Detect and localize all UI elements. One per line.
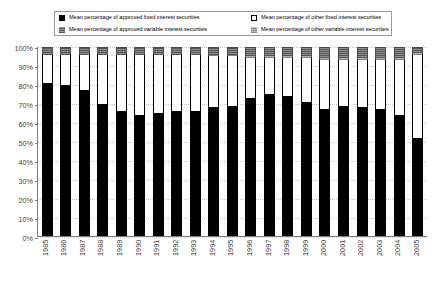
bar-column[interactable] xyxy=(42,47,53,236)
bar-column[interactable] xyxy=(79,47,90,236)
legend-item-other-variable: Mean percentage of other variable intere… xyxy=(251,24,397,36)
x-axis-tick-label: 1986 xyxy=(59,240,70,284)
bar-column[interactable] xyxy=(264,47,275,236)
bar-column[interactable] xyxy=(60,47,71,236)
segment-approved-fixed xyxy=(227,106,238,236)
segment-approved-fixed xyxy=(97,104,108,236)
segment-other-fixed xyxy=(357,60,368,107)
stacked-bar[interactable] xyxy=(282,47,293,236)
x-axis-tick-label: 1996 xyxy=(245,240,256,284)
segment-other-fixed xyxy=(97,55,108,104)
segment-other-fixed xyxy=(264,58,275,94)
segment-other-variable xyxy=(301,47,312,56)
x-axis-tick-label: 1995 xyxy=(226,240,237,284)
segment-approved-fixed xyxy=(171,111,182,236)
x-axis-tick-label: 1990 xyxy=(134,240,145,284)
x-axis-tick-label: 2001 xyxy=(338,240,349,284)
x-axis-tick-label: 1993 xyxy=(189,240,200,284)
bar-column[interactable] xyxy=(208,47,219,236)
segment-other-variable xyxy=(357,47,368,58)
stacked-bar[interactable] xyxy=(301,47,312,236)
segment-approved-fixed xyxy=(338,106,349,236)
stacked-bar[interactable] xyxy=(190,47,201,236)
stacked-bar[interactable] xyxy=(79,47,90,236)
stacked-bar[interactable] xyxy=(60,47,71,236)
segment-approved-fixed xyxy=(282,96,293,236)
stacked-bar[interactable] xyxy=(208,47,219,236)
bar-column[interactable] xyxy=(227,47,238,236)
dark-gray-square-icon xyxy=(59,27,65,33)
y-axis-tick-label: 100% xyxy=(15,44,33,53)
x-axis-tick-label: 2000 xyxy=(319,240,330,284)
y-axis-tick-label: 10% xyxy=(19,215,33,224)
segment-other-variable xyxy=(208,47,219,55)
x-axis-tick-label: 1999 xyxy=(301,240,312,284)
bar-column[interactable] xyxy=(338,47,349,236)
segment-approved-fixed xyxy=(301,102,312,236)
stacked-bar[interactable] xyxy=(264,47,275,236)
legend-label: Mean percentage of other variable intere… xyxy=(261,24,389,35)
bar-column[interactable] xyxy=(301,47,312,236)
segment-other-variable xyxy=(282,47,293,56)
segment-other-variable xyxy=(134,47,145,55)
bar-column[interactable] xyxy=(134,47,145,236)
bar-column[interactable] xyxy=(394,47,405,236)
segment-other-variable xyxy=(116,47,127,55)
segment-approved-fixed xyxy=(412,138,423,236)
x-axis-tick-label: 2003 xyxy=(375,240,386,284)
bar-column[interactable] xyxy=(97,47,108,236)
stacked-bar[interactable] xyxy=(319,47,330,236)
segment-other-fixed xyxy=(338,60,349,105)
segment-approved-fixed xyxy=(60,85,71,236)
stacked-bar[interactable] xyxy=(227,47,238,236)
segment-other-fixed xyxy=(412,55,423,138)
x-axis-labels: 1985198619871988198919901991199219931994… xyxy=(37,240,427,284)
bar-column[interactable] xyxy=(190,47,201,236)
bar-column[interactable] xyxy=(116,47,127,236)
bar-column[interactable] xyxy=(375,47,386,236)
stacked-bar[interactable] xyxy=(97,47,108,236)
stacked-bar[interactable] xyxy=(394,47,405,236)
chart-legend: Mean percentage of approved fixed intere… xyxy=(54,11,392,36)
bar-column[interactable] xyxy=(319,47,330,236)
bar-column[interactable] xyxy=(171,47,182,236)
bar-series-layer xyxy=(38,47,427,236)
segment-other-fixed xyxy=(245,58,256,98)
segment-other-fixed xyxy=(208,56,219,107)
segment-other-fixed xyxy=(375,60,386,109)
bar-column[interactable] xyxy=(282,47,293,236)
segment-approved-fixed xyxy=(375,109,386,236)
y-axis-tick-label: 60% xyxy=(19,120,33,129)
stacked-bar[interactable] xyxy=(153,47,164,236)
segment-other-fixed xyxy=(227,56,238,105)
stacked-bar[interactable] xyxy=(134,47,145,236)
x-axis-tick-label: 1988 xyxy=(96,240,107,284)
stacked-bar[interactable] xyxy=(338,47,349,236)
x-axis-tick-label: 1992 xyxy=(171,240,182,284)
white-square-icon xyxy=(251,15,257,21)
legend-label: Mean percentage of approved variable int… xyxy=(69,24,207,35)
stacked-bar[interactable] xyxy=(357,47,368,236)
bar-column[interactable] xyxy=(153,47,164,236)
segment-approved-fixed xyxy=(319,109,330,236)
stacked-bar[interactable] xyxy=(245,47,256,236)
stacked-bar[interactable] xyxy=(412,47,423,236)
bar-column[interactable] xyxy=(412,47,423,236)
bar-column[interactable] xyxy=(245,47,256,236)
segment-approved-fixed xyxy=(208,107,219,236)
stacked-bar[interactable] xyxy=(375,47,386,236)
y-axis-tick-label: 90% xyxy=(19,63,33,72)
segment-approved-fixed xyxy=(116,111,127,236)
stacked-bar[interactable] xyxy=(116,47,127,236)
segment-other-variable xyxy=(60,47,71,55)
y-axis-tick-label: 20% xyxy=(19,196,33,205)
stacked-bar[interactable] xyxy=(42,47,53,236)
stacked-bar[interactable] xyxy=(171,47,182,236)
segment-other-fixed xyxy=(394,60,405,115)
segment-other-variable xyxy=(190,47,201,55)
y-axis-tick xyxy=(35,238,38,239)
gridline: 0% xyxy=(38,237,427,238)
bar-column[interactable] xyxy=(357,47,368,236)
segment-other-variable xyxy=(375,47,386,58)
chart-page: Mean percentage of approved fixed intere… xyxy=(0,0,443,287)
